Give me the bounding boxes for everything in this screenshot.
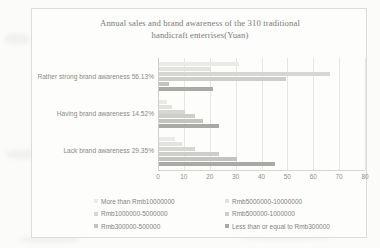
bar [159, 110, 185, 114]
x-axis-tick-label: 10 [180, 173, 187, 180]
y-axis-category-label: Having brand awareness 14.52% [57, 110, 154, 117]
legend-item[interactable]: Rmb500000-1000000 [225, 208, 360, 221]
x-axis-tick-label: 40 [258, 173, 265, 180]
bar [159, 105, 172, 109]
plot-area: Rather strong brand awareness 56.13%Havi… [158, 58, 365, 170]
legend-column-right: Rmb5000000-10000000Rmb500000-1000000Less… [225, 195, 360, 233]
legend-swatch-icon [225, 199, 229, 203]
bar [159, 77, 286, 81]
legend-item[interactable]: Rmb5000000-10000000 [225, 195, 360, 208]
legend-label: Rmb300000-500000 [101, 223, 160, 230]
bar [159, 142, 182, 146]
scan-smudge [4, 34, 30, 44]
legend-swatch-icon [94, 212, 98, 216]
bar-group: Having brand awareness 14.52% [158, 95, 365, 132]
chart-container: Annual sales and brand awareness of the … [31, 8, 367, 238]
bar [159, 114, 195, 118]
x-axis-tick-label: 60 [310, 173, 317, 180]
legend-item[interactable]: Rmb300000-500000 [94, 220, 229, 233]
bar [159, 67, 211, 71]
legend-label: More than Rmb10000000 [101, 198, 175, 205]
bar [159, 87, 213, 91]
bar [159, 147, 195, 151]
legend-swatch-icon [94, 224, 98, 228]
bar-group: Lack brand awareness 29.35% [158, 133, 365, 170]
bar [159, 162, 275, 166]
y-axis-category-label: Rather strong brand awareness 56.13% [37, 73, 154, 80]
legend-swatch-icon [94, 199, 98, 203]
x-axis-tick-label: 0 [156, 173, 160, 180]
x-axis-tick-label: 70 [336, 173, 343, 180]
chart-title-line-1: Annual sales and brand awareness of the … [60, 18, 340, 30]
bar [159, 137, 175, 141]
legend-item[interactable]: More than Rmb10000000 [94, 195, 229, 208]
legend-label: Rmb500000-1000000 [232, 210, 295, 217]
bar [159, 124, 219, 128]
legend-label: Rmb1000000-5000000 [101, 210, 168, 217]
bar [159, 62, 239, 66]
gridline [365, 58, 366, 170]
x-axis-tick-label: 30 [232, 173, 239, 180]
x-axis-tick-label: 20 [206, 173, 213, 180]
legend-swatch-icon [225, 212, 229, 216]
legend-item[interactable]: Less than or equal to Rmb300000 [225, 220, 360, 233]
legend-label: Rmb5000000-10000000 [232, 198, 302, 205]
bar [159, 152, 219, 156]
bar [159, 82, 169, 86]
bar [159, 72, 330, 76]
bar [159, 100, 167, 104]
x-axis-tick-label: 50 [284, 173, 291, 180]
legend-label: Less than or equal to Rmb300000 [232, 223, 330, 230]
figure-canvas: Annual sales and brand awareness of the … [0, 0, 380, 248]
y-axis-category-label: Lack brand awareness 29.35% [63, 147, 154, 154]
x-axis-ticks: 01020304050607080 [158, 170, 365, 184]
chart-legend: More than Rmb10000000Rmb1000000-5000000R… [94, 195, 364, 235]
bar-group: Rather strong brand awareness 56.13% [158, 58, 365, 95]
chart-title: Annual sales and brand awareness of the … [60, 18, 340, 41]
legend-item[interactable]: Rmb1000000-5000000 [94, 208, 229, 221]
legend-column-left: More than Rmb10000000Rmb1000000-5000000R… [94, 195, 229, 233]
x-axis-tick-label: 80 [361, 173, 368, 180]
legend-swatch-icon [225, 224, 229, 228]
bar [159, 119, 203, 123]
chart-title-line-2: handicraft enterrises(Yuan) [60, 30, 340, 42]
bar [159, 157, 237, 161]
